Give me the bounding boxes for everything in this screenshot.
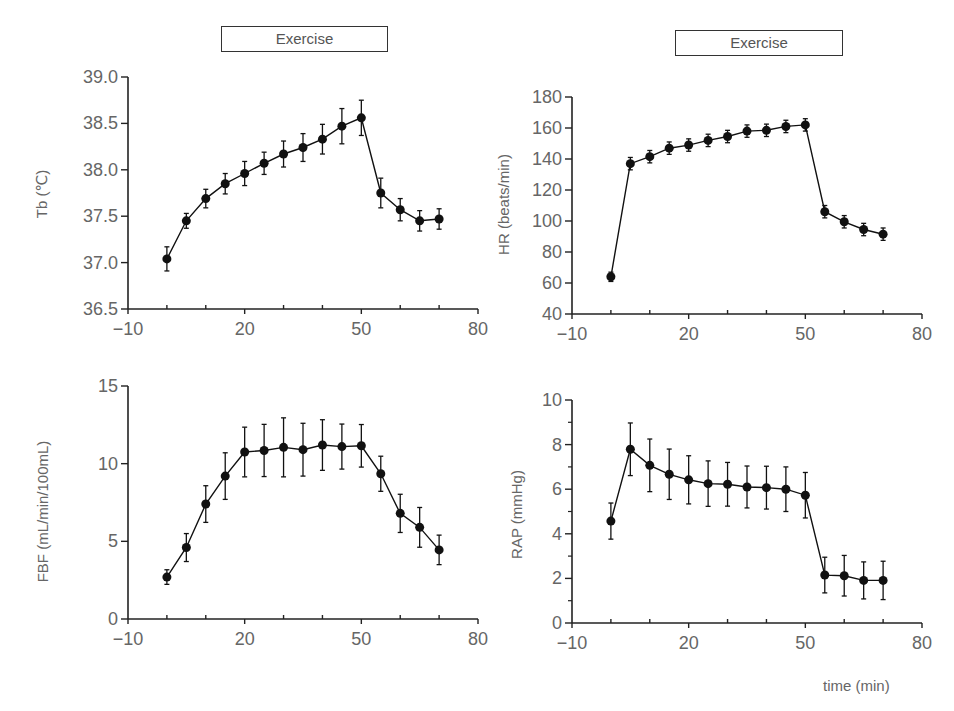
data-point xyxy=(801,491,810,500)
data-point xyxy=(879,576,888,585)
data-point xyxy=(260,159,269,168)
y-tick-label: 40 xyxy=(542,304,562,324)
y-tick-label: 37.0 xyxy=(83,253,118,273)
data-point xyxy=(820,207,829,216)
data-point xyxy=(182,216,191,225)
y-tick-label: 140 xyxy=(532,149,562,169)
y-tick-label: 38.0 xyxy=(83,160,118,180)
data-point xyxy=(376,469,385,478)
y-tick-label: 2 xyxy=(552,568,562,588)
y-tick-label: 10 xyxy=(98,454,118,474)
data-point xyxy=(665,470,674,479)
data-point xyxy=(435,545,444,554)
data-point xyxy=(415,216,424,225)
data-point xyxy=(704,136,713,145)
tb-axis-label: Tb (℃) xyxy=(33,144,51,244)
x-tick-label: 50 xyxy=(351,629,371,649)
y-tick-label: 4 xyxy=(552,524,562,544)
data-point xyxy=(357,113,366,122)
data-point xyxy=(337,442,346,451)
data-line xyxy=(611,125,883,277)
data-point xyxy=(318,135,327,144)
x-tick-label: 20 xyxy=(679,324,699,344)
x-tick-label: 50 xyxy=(795,633,815,653)
figure: Exercise Exercise −1020508036.537.037.53… xyxy=(0,0,954,711)
data-point xyxy=(435,214,444,223)
time-axis-label: time (min) xyxy=(823,677,890,694)
x-tick-label: 20 xyxy=(235,629,255,649)
y-tick-label: 160 xyxy=(532,118,562,138)
data-point xyxy=(626,445,635,454)
data-point xyxy=(723,480,732,489)
data-point xyxy=(762,483,771,492)
data-point xyxy=(240,448,249,457)
data-point xyxy=(221,179,230,188)
data-point xyxy=(743,127,752,136)
data-point xyxy=(840,571,849,580)
y-tick-label: 8 xyxy=(552,435,562,455)
fbf-chart: −10205080051015 xyxy=(98,376,488,649)
x-tick-label: 80 xyxy=(468,629,488,649)
y-tick-label: 80 xyxy=(542,242,562,262)
data-point xyxy=(396,509,405,518)
data-point xyxy=(221,472,230,481)
x-tick-label: 80 xyxy=(912,633,932,653)
x-tick-label: 20 xyxy=(679,633,699,653)
x-tick-label: 20 xyxy=(235,319,255,339)
data-point xyxy=(781,485,790,494)
data-point xyxy=(820,571,829,580)
data-point xyxy=(723,132,732,141)
data-point xyxy=(840,217,849,226)
data-point xyxy=(318,441,327,450)
data-point xyxy=(299,445,308,454)
data-point xyxy=(299,143,308,152)
data-point xyxy=(606,517,615,526)
y-tick-label: 6 xyxy=(552,479,562,499)
y-tick-label: 5 xyxy=(108,531,118,551)
data-point xyxy=(704,479,713,488)
data-point xyxy=(781,122,790,131)
data-point xyxy=(162,573,171,582)
x-tick-label: −10 xyxy=(557,324,588,344)
data-point xyxy=(684,475,693,484)
data-point xyxy=(645,461,654,470)
data-point xyxy=(859,576,868,585)
x-tick-label: 80 xyxy=(468,319,488,339)
data-point xyxy=(645,152,654,161)
data-point xyxy=(743,482,752,491)
y-tick-label: 60 xyxy=(542,273,562,293)
fbf-axis-label: FBF (mL/min/100mL) xyxy=(34,412,51,612)
data-point xyxy=(859,225,868,234)
rap-chart: −102050800246810 xyxy=(542,390,932,653)
data-point xyxy=(879,230,888,239)
y-tick-label: 0 xyxy=(552,613,562,633)
data-point xyxy=(260,446,269,455)
hr-axis-label: HR (beats/min) xyxy=(495,135,512,275)
data-point xyxy=(201,500,210,509)
x-tick-label: −10 xyxy=(113,629,144,649)
y-tick-label: 180 xyxy=(532,87,562,107)
x-tick-label: −10 xyxy=(113,319,144,339)
data-point xyxy=(240,169,249,178)
y-tick-label: 10 xyxy=(542,390,562,410)
data-point xyxy=(606,272,615,281)
data-point xyxy=(357,441,366,450)
data-point xyxy=(801,120,810,129)
data-point xyxy=(626,159,635,168)
plots-canvas: −1020508036.537.037.538.038.539.0 −10205… xyxy=(0,0,954,711)
data-point xyxy=(201,194,210,203)
y-tick-label: 36.5 xyxy=(83,299,118,319)
y-tick-label: 15 xyxy=(98,376,118,396)
data-point xyxy=(376,189,385,198)
x-tick-label: 50 xyxy=(351,319,371,339)
x-tick-label: −10 xyxy=(557,633,588,653)
data-point xyxy=(279,443,288,452)
y-tick-label: 120 xyxy=(532,180,562,200)
tb-chart: −1020508036.537.037.538.038.539.0 xyxy=(83,67,488,339)
data-point xyxy=(762,126,771,135)
hr-chart: −10205080406080100120140160180 xyxy=(532,87,932,344)
y-tick-label: 38.5 xyxy=(83,113,118,133)
y-tick-label: 0 xyxy=(108,609,118,629)
rap-axis-label: RAP (mmHg) xyxy=(508,455,525,575)
x-tick-label: 80 xyxy=(912,324,932,344)
